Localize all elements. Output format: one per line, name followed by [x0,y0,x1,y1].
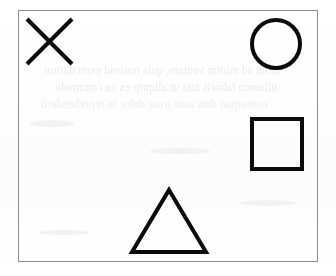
page-frame-rectangle [18,10,318,262]
scanned-page: anim ad minim veniam, quis nostrud exerc… [0,0,336,276]
